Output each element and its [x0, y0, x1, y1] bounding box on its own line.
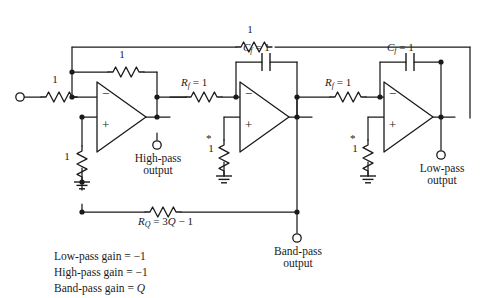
- cf2-label: Cf = 1: [387, 42, 414, 55]
- resistor-amp1-ground: [77, 146, 87, 182]
- rf2-value: = 1: [334, 76, 351, 88]
- rq-equals: = 3: [151, 215, 168, 227]
- amp1-ground-resistor-label: 1: [57, 151, 77, 163]
- rq-label: RQ = 3Q − 1: [138, 216, 193, 229]
- rq-symbol: R: [138, 215, 145, 227]
- gain-note-band-pass-prefix: Band-pass gain =: [54, 282, 137, 294]
- high-pass-output-label: High-pass output: [122, 152, 194, 177]
- rf2-symbol: R: [325, 76, 332, 88]
- high-pass-terminal: [153, 141, 161, 149]
- amp1-feedback-resistor-label: 1: [112, 49, 132, 61]
- opamp-2-inverting-sign: −: [245, 86, 252, 102]
- resistor-rf2: [330, 92, 366, 102]
- cf1-label: Cf = 1: [243, 42, 270, 55]
- rf2-label: Rf = 1: [325, 77, 351, 90]
- cf1-value: = 1: [253, 41, 270, 53]
- cf2-value: = 1: [397, 41, 414, 53]
- capacitor-cf1: [262, 53, 270, 71]
- rf1-symbol: R: [181, 76, 188, 88]
- gain-note-low-pass: Low-pass gain = −1: [54, 249, 148, 265]
- opamp-3-noninverting-sign: +: [389, 117, 396, 133]
- gain-note-low-pass-prefix: Low-pass gain =: [54, 250, 134, 262]
- gain-note-band-pass: Band-pass gain = Q: [54, 281, 148, 297]
- circuit-figure: − + − + − + 1 1 1 1 Rf = 1 Rf = 1 Cf = 1…: [0, 0, 492, 298]
- gain-note-band-pass-value: Q: [137, 282, 145, 294]
- low-pass-output-label: Low-pass output: [406, 162, 478, 187]
- resistor-rf1: [186, 92, 222, 102]
- rq-q: Q: [168, 215, 176, 227]
- input-resistor-label: 1: [45, 74, 65, 86]
- opamp-2-noninverting-sign: +: [245, 117, 252, 133]
- gain-note-high-pass-value: −1: [136, 266, 148, 278]
- gain-note-high-pass: High-pass gain = −1: [54, 265, 148, 281]
- high-pass-output-line1: High-pass: [122, 152, 194, 164]
- opamp-3-inverting-sign: −: [389, 86, 396, 102]
- gain-note-high-pass-prefix: High-pass gain =: [54, 266, 136, 278]
- low-pass-output-line2: output: [406, 174, 478, 186]
- opamp-1-noninverting-sign: +: [102, 117, 109, 133]
- gain-note-low-pass-value: −1: [134, 250, 146, 262]
- gain-notes: Low-pass gain = −1 High-pass gain = −1 B…: [54, 249, 148, 297]
- low-pass-terminal: [437, 151, 445, 159]
- band-pass-output-line2: output: [262, 257, 334, 269]
- amp3-star-resistor-label: 1: [347, 143, 363, 155]
- high-pass-output-line2: output: [122, 164, 194, 176]
- opamp-1-inverting-sign: −: [102, 86, 109, 102]
- rq-tail: − 1: [176, 215, 193, 227]
- rf1-label: Rf = 1: [181, 77, 207, 90]
- top-feedback-resistor-label: 1: [240, 24, 260, 36]
- capacitor-cf2: [406, 53, 414, 71]
- resistor-amp1-feedback: [108, 67, 144, 77]
- rf1-value: = 1: [190, 76, 207, 88]
- ground-amp2-star: [216, 176, 232, 183]
- band-pass-output-label: Band-pass output: [262, 245, 334, 270]
- ground-amp3-star: [360, 176, 376, 183]
- band-pass-terminal: [293, 234, 301, 242]
- resistor-amp2-star-ground: [219, 140, 229, 176]
- input-terminal: [16, 93, 24, 101]
- resistor-amp3-star-ground: [363, 140, 373, 176]
- amp2-star-resistor-label: 1: [203, 143, 219, 155]
- low-pass-output-line1: Low-pass: [406, 162, 478, 174]
- band-pass-output-line1: Band-pass: [262, 245, 334, 257]
